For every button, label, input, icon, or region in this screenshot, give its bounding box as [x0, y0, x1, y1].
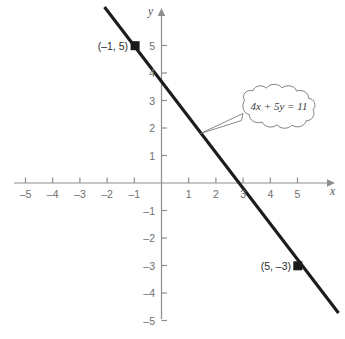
y-tick-label: 1	[149, 150, 155, 161]
callout-pointer	[201, 114, 244, 134]
y-tick-label: –3	[143, 260, 155, 271]
y-tick-label: –5	[143, 315, 155, 326]
point-label-b: (5, –3)	[261, 261, 291, 272]
equation-line	[105, 7, 339, 313]
x-tick-label: –1	[128, 189, 140, 200]
data-point-marker-b[interactable]	[293, 261, 302, 270]
y-tick-label: –4	[143, 288, 155, 299]
y-tick-label: –1	[143, 205, 155, 216]
x-tick-label: –2	[101, 189, 113, 200]
x-tick-label: –3	[74, 189, 86, 200]
x-tick-label: 4	[267, 189, 273, 200]
graph-canvas	[0, 0, 345, 339]
callout-pointer-tail	[201, 114, 244, 134]
x-tick-label: 2	[213, 189, 219, 200]
y-axis-group	[158, 8, 167, 321]
callout-equation-text: 4x + 5y = 11	[251, 101, 308, 112]
x-tick-label: 3	[240, 189, 246, 200]
point-label-a: (–1, 5)	[98, 41, 128, 52]
y-axis-label: y	[148, 6, 153, 18]
y-tick-label: 3	[149, 95, 155, 106]
y-axis-arrowhead	[158, 8, 165, 16]
data-point-marker-a[interactable]	[131, 41, 140, 50]
y-tick-label: 2	[149, 123, 155, 134]
y-tick-label: –2	[143, 233, 155, 244]
coordinate-plane-figure: –5 –4 –3 –2 –1 1 2 3 4 5 5 4 3 2 1 –1 –2…	[0, 0, 345, 339]
y-tick-label: 5	[149, 40, 155, 51]
y-tick-label: 4	[149, 68, 155, 79]
x-tick-label: 1	[186, 189, 192, 200]
x-tick-label: –5	[20, 189, 32, 200]
x-axis-label: x	[330, 186, 335, 198]
x-tick-label: –4	[47, 189, 59, 200]
x-tick-label: 5	[295, 189, 301, 200]
x-axis-group	[14, 178, 335, 187]
